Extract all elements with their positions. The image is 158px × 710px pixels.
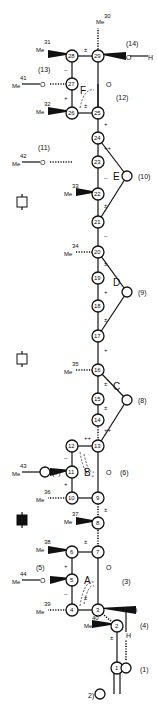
svg-text:O: O bbox=[106, 564, 112, 571]
svg-text:D: D bbox=[113, 277, 120, 288]
svg-text:(6): (6) bbox=[120, 469, 129, 477]
svg-text:33: 33 bbox=[72, 183, 79, 189]
svg-text:Me: Me bbox=[12, 83, 21, 89]
svg-text:40: 40 bbox=[92, 615, 99, 621]
svg-text:(14): (14) bbox=[126, 40, 138, 48]
svg-text:(13): (13) bbox=[38, 66, 50, 74]
svg-text:(4): (4) bbox=[140, 622, 149, 630]
svg-text:Me: Me bbox=[12, 471, 21, 477]
svg-text:±: ± bbox=[84, 595, 88, 601]
svg-text:26: 26 bbox=[68, 110, 75, 116]
svg-text:Me: Me bbox=[36, 609, 45, 615]
molecule-diagram: 1 2 3 4 5 6 7 8 9 10 11 12 13 14 15 16 1… bbox=[0, 0, 158, 710]
svg-text:19: 19 bbox=[94, 275, 101, 281]
svg-text:O: O bbox=[40, 577, 46, 584]
svg-text:(5): (5) bbox=[36, 564, 45, 572]
svg-text:(8): (8) bbox=[138, 397, 147, 405]
svg-text:H: H bbox=[126, 632, 131, 639]
svg-text:43: 43 bbox=[20, 463, 27, 469]
svg-text:O: O bbox=[40, 159, 46, 166]
svg-text:27: 27 bbox=[68, 81, 75, 87]
svg-text:–: – bbox=[64, 67, 68, 73]
svg-text:10: 10 bbox=[68, 495, 75, 501]
svg-text:2): 2) bbox=[88, 692, 94, 700]
svg-text:44: 44 bbox=[20, 571, 27, 577]
svg-text:(10): (10) bbox=[138, 173, 150, 181]
svg-text:±: ± bbox=[84, 47, 88, 53]
svg-text:(9): (9) bbox=[138, 289, 147, 297]
svg-text:Me: Me bbox=[12, 579, 21, 585]
svg-text:–: – bbox=[104, 175, 108, 181]
svg-text:++: ++ bbox=[84, 435, 92, 441]
svg-text:Me: Me bbox=[36, 109, 45, 115]
methyl-labels: Me30 Me31 Me32 Me33 Me34 Me35 Me36 Me37 … bbox=[12, 13, 111, 629]
svg-text:Me: Me bbox=[36, 497, 45, 503]
svg-text:±: ± bbox=[104, 507, 108, 513]
svg-text:16: 16 bbox=[94, 367, 101, 373]
svg-text:36: 36 bbox=[44, 489, 51, 495]
svg-text:(12): (12) bbox=[116, 94, 128, 102]
svg-text:29: 29 bbox=[94, 53, 101, 59]
svg-text:11: 11 bbox=[68, 469, 75, 475]
svg-text:12: 12 bbox=[68, 443, 75, 449]
svg-text:±: ± bbox=[104, 381, 108, 387]
svg-text:17: 17 bbox=[94, 333, 101, 339]
svg-text:+: + bbox=[104, 347, 108, 353]
box-markers bbox=[17, 194, 27, 528]
svg-text:Me: Me bbox=[64, 251, 73, 257]
svg-text:O: O bbox=[132, 607, 138, 614]
svg-text:35: 35 bbox=[72, 361, 79, 367]
svg-text:Me: Me bbox=[96, 19, 105, 25]
svg-text:B: B bbox=[84, 467, 91, 478]
svg-text:–: – bbox=[64, 591, 68, 597]
svg-text:–: – bbox=[64, 455, 68, 461]
svg-text:C: C bbox=[113, 381, 120, 392]
svg-text:A: A bbox=[84, 575, 91, 586]
svg-text:+: + bbox=[64, 481, 68, 487]
svg-text:±: ± bbox=[84, 539, 88, 545]
svg-text:Me: Me bbox=[64, 519, 73, 525]
svg-text:(11): (11) bbox=[38, 144, 50, 152]
svg-text:42: 42 bbox=[20, 153, 27, 159]
svg-text:±: ± bbox=[110, 635, 114, 641]
svg-text:H: H bbox=[148, 54, 153, 61]
svg-text:F: F bbox=[80, 85, 86, 96]
svg-text:20: 20 bbox=[94, 249, 101, 255]
svg-text:38: 38 bbox=[44, 539, 51, 545]
svg-text:25: 25 bbox=[94, 110, 101, 116]
svg-text:O: O bbox=[106, 81, 112, 88]
svg-text:15: 15 bbox=[94, 396, 101, 402]
svg-text:28: 28 bbox=[68, 53, 75, 59]
svg-text:Me: Me bbox=[36, 47, 45, 53]
svg-text:24: 24 bbox=[94, 135, 101, 141]
svg-text:21: 21 bbox=[94, 219, 101, 225]
svg-text:23: 23 bbox=[94, 159, 101, 165]
svg-text:Me: Me bbox=[12, 161, 21, 167]
svg-text:30: 30 bbox=[104, 13, 111, 19]
svg-text:Me: Me bbox=[64, 369, 73, 375]
svg-text:±: ± bbox=[84, 103, 88, 109]
svg-text:±: ± bbox=[104, 405, 108, 411]
svg-text:(1): (1) bbox=[140, 666, 149, 674]
svg-text:14: 14 bbox=[94, 417, 101, 423]
svg-text:32: 32 bbox=[44, 101, 51, 107]
svg-text:+: + bbox=[64, 563, 68, 569]
svg-text:E: E bbox=[113, 171, 120, 182]
svg-text:31: 31 bbox=[44, 39, 51, 45]
svg-text:37: 37 bbox=[72, 511, 79, 517]
svg-text:++: ++ bbox=[104, 427, 112, 433]
svg-text:22: 22 bbox=[94, 191, 101, 197]
svg-text:O: O bbox=[40, 81, 46, 88]
svg-text:13: 13 bbox=[94, 443, 101, 449]
svg-text:Me: Me bbox=[84, 623, 93, 629]
svg-text:39: 39 bbox=[44, 601, 51, 607]
svg-text:–: – bbox=[104, 233, 108, 239]
svg-text:(7): (7) bbox=[52, 469, 61, 477]
svg-text:(3): (3) bbox=[122, 578, 131, 586]
atoms: 1 2 3 4 5 6 7 8 9 10 11 12 13 14 15 16 1… bbox=[40, 50, 132, 699]
svg-text:+: + bbox=[104, 121, 108, 127]
svg-text:+: + bbox=[104, 289, 108, 295]
svg-text:18: 18 bbox=[94, 303, 101, 309]
svg-text:+: + bbox=[64, 95, 68, 101]
svg-text:34: 34 bbox=[72, 243, 79, 249]
